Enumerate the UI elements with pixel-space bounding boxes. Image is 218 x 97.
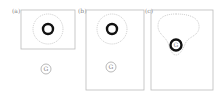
panel-c-label: (c): [145, 7, 153, 14]
panel-a-label: (a): [12, 7, 20, 14]
ring-icon: [43, 24, 53, 34]
goal-label: G: [174, 41, 179, 48]
goal-label: G: [44, 65, 49, 72]
ring-icon: [107, 24, 117, 34]
goal-label: G: [109, 63, 114, 70]
figure: (a) G (b) G (c) G: [0, 0, 218, 97]
panel-a: (a) G: [12, 7, 75, 74]
panel-b: (b) G: [78, 7, 144, 90]
dotted-region: [97, 14, 127, 44]
panel-b-label: (b): [78, 7, 87, 14]
panel-c: (c) G: [145, 7, 213, 90]
panel-b-frame: [86, 10, 144, 90]
panel-c-frame: [151, 10, 213, 90]
panel-a-frame: [21, 10, 75, 49]
dotted-region: [33, 14, 63, 44]
